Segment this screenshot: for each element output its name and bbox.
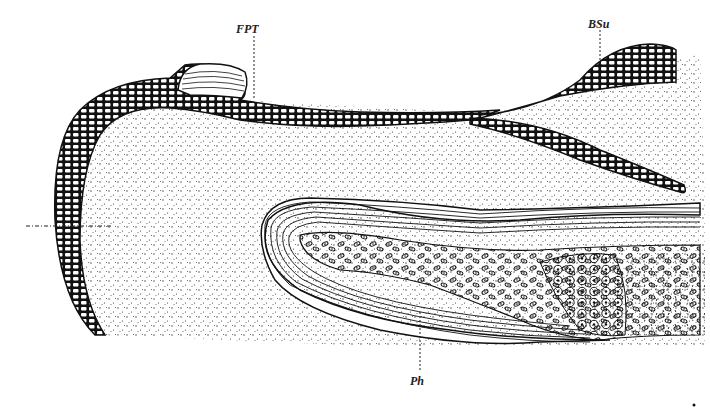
specimen-mark xyxy=(693,404,696,407)
label-ph: Ph xyxy=(410,374,424,389)
histology-figure xyxy=(0,0,710,409)
label-fpt: FPT xyxy=(236,22,259,37)
label-bsu: BSu xyxy=(588,17,609,32)
fpt-placode xyxy=(178,64,247,98)
hypertrophic-zone xyxy=(625,250,705,335)
